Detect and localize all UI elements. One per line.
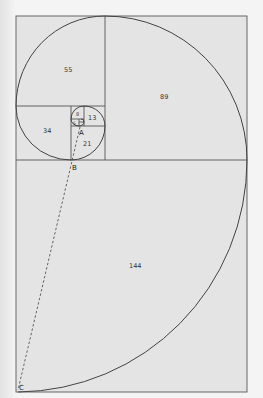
square-label-55: 55 bbox=[64, 66, 72, 74]
point-label-b: B bbox=[72, 164, 77, 172]
square-label-89: 89 bbox=[160, 93, 168, 101]
square-label-144: 144 bbox=[129, 262, 141, 270]
square-label-34: 34 bbox=[43, 127, 51, 135]
square-label-8: 8 bbox=[76, 111, 79, 117]
square-label-21: 21 bbox=[83, 140, 91, 148]
fibonacci-spiral-diagram: 144 89 55 34 21 13 8 5 A B C bbox=[0, 0, 263, 398]
point-label-c: C bbox=[19, 384, 24, 392]
point-label-a: A bbox=[79, 129, 84, 137]
outer-rectangle bbox=[16, 16, 247, 392]
square-label-5: 5 bbox=[73, 121, 76, 126]
square-label-13: 13 bbox=[88, 114, 96, 122]
